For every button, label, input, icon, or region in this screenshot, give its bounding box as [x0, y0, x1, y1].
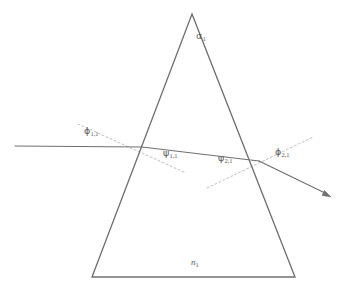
refractive-index-symbol: n: [191, 257, 196, 267]
refraction-angle-1-subscript: 1,1: [169, 152, 177, 159]
incidence-angle-2-subscript: 2,1: [224, 157, 232, 164]
incidence-angle-1-subscript: 1,1: [90, 130, 98, 137]
refractive-index-subscript: 1: [196, 261, 199, 268]
apex-angle-label: α1: [196, 31, 206, 41]
exit-angle-2-subscript: 2,1: [281, 151, 289, 158]
incident-ray: [15, 146, 142, 147]
emergent-ray: [259, 161, 327, 194]
incidence-angle-2-label: ψ2,1: [218, 153, 233, 163]
refraction-angle-1-label: ψ1,1: [163, 148, 178, 158]
apex-angle-subscript: 1: [202, 35, 205, 42]
emergent-ray-arrowhead: [322, 191, 331, 198]
internal-refracted-ray: [142, 147, 259, 161]
triangular-prism: [92, 14, 295, 277]
incidence-angle-1-label: ϕ1,1: [84, 126, 99, 136]
refractive-index-label: n1: [191, 258, 199, 267]
exit-angle-2-label: ϕ2,1: [275, 147, 290, 157]
refraction-diagram: α1 ϕ1,1 ψ1,1 ψ2,1 ϕ2,1 n1: [0, 0, 344, 292]
diagram-canvas: [0, 0, 344, 292]
